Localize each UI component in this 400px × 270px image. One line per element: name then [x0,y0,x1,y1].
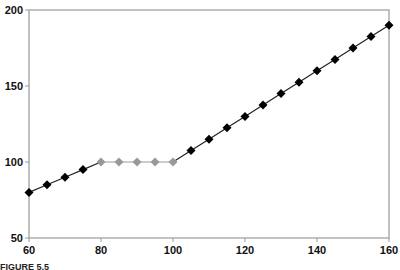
y-tick-label: 100 [5,156,23,168]
x-tick-label: 140 [308,244,326,256]
line-chart: 50100150200 6080100120140160 [0,0,400,262]
plot-area-border [29,10,389,238]
x-tick-label: 80 [95,244,107,256]
diamond-marker-icon [349,44,358,53]
diamond-marker-icon [97,158,106,167]
diamond-marker-icon [43,180,52,189]
diamond-marker-icon [133,158,142,167]
diamond-marker-icon [277,89,286,98]
y-tick-label: 150 [5,80,23,92]
x-tick-label: 160 [380,244,398,256]
diamond-marker-icon [295,78,304,87]
figure-caption: FIGURE 5.5 [0,262,49,270]
x-tick-label: 120 [236,244,254,256]
diamond-marker-icon [187,146,196,155]
y-axis: 50100150200 [5,4,29,244]
diamond-marker-icon [241,112,250,121]
diamond-marker-icon [169,158,178,167]
diamond-marker-icon [331,55,340,64]
x-axis: 6080100120140160 [23,238,398,256]
diamond-marker-icon [151,158,160,167]
diamond-marker-icon [367,32,376,41]
diamond-marker-icon [205,135,214,144]
diamond-marker-icon [115,158,124,167]
diamond-marker-icon [61,173,70,182]
diamond-marker-icon [313,66,322,75]
diamond-marker-icon [259,101,268,110]
diamond-marker-icon [79,165,88,174]
diamond-marker-icon [25,188,34,197]
data-markers [25,21,394,197]
plot-frame [29,10,389,238]
diamond-marker-icon [223,123,232,132]
x-tick-label: 60 [23,244,35,256]
diamond-marker-icon [385,21,394,30]
x-tick-label: 100 [164,244,182,256]
y-tick-label: 200 [5,4,23,16]
y-tick-label: 50 [11,232,23,244]
